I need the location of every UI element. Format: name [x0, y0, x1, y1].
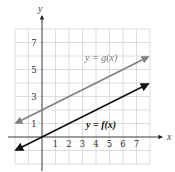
coordinate-plane: x y 1 2 3 4 5 6 7 1 3 5 7 y = g(x) y = f… — [0, 0, 175, 172]
y-axis-label: y — [37, 3, 43, 14]
svg-text:3: 3 — [31, 92, 36, 102]
svg-text:5: 5 — [31, 65, 36, 75]
f-label: y = f(x) — [85, 119, 116, 131]
svg-text:7: 7 — [31, 38, 36, 48]
svg-text:1: 1 — [31, 119, 36, 129]
svg-text:6: 6 — [120, 139, 125, 149]
svg-text:2: 2 — [66, 139, 71, 149]
svg-text:5: 5 — [107, 139, 112, 149]
svg-text:7: 7 — [134, 139, 139, 149]
svg-text:4: 4 — [93, 139, 98, 149]
x-axis-label: x — [166, 131, 172, 142]
g-label: y = g(x) — [84, 52, 118, 64]
svg-text:1: 1 — [53, 139, 58, 149]
svg-text:3: 3 — [80, 139, 85, 149]
x-tick-labels: 1 2 3 4 5 6 7 — [53, 139, 139, 149]
